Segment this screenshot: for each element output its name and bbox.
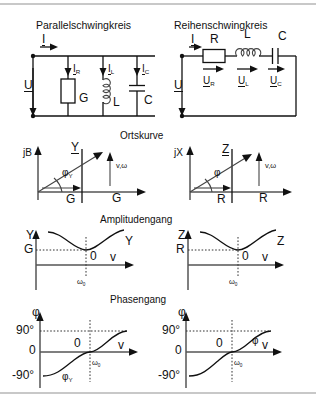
phase-right-plot — [0, 0, 316, 396]
phase-right-resonance-label: ω0 — [234, 359, 242, 367]
phase-right-yaxis-label: φ — [178, 306, 186, 318]
figure-sheet: Parallelschwingkreis Reihenschwingkreis — [0, 0, 316, 396]
phase-right-tick-top: 90° — [162, 324, 180, 336]
phase-right-tick-mid: 0 — [175, 344, 182, 356]
phase-right-tick-bottom: -90° — [158, 369, 180, 381]
phase-right-xaxis-label: v — [262, 339, 268, 351]
phase-right-resonance-text: ω — [234, 358, 240, 367]
phase-right-origin-label: 0 — [216, 337, 223, 349]
phase-right-curve-label: φ — [252, 336, 258, 346]
